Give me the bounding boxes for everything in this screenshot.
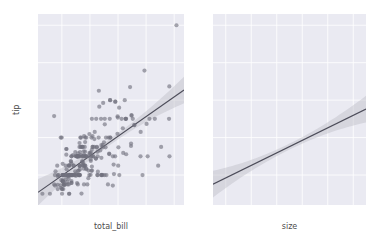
data-point xyxy=(59,135,63,139)
data-point xyxy=(83,145,87,149)
data-point xyxy=(77,173,81,177)
data-point xyxy=(53,169,57,173)
data-point xyxy=(113,100,117,104)
data-point xyxy=(81,154,85,158)
data-point xyxy=(97,105,101,109)
data-point xyxy=(93,130,97,134)
data-point xyxy=(99,117,103,121)
data-point xyxy=(106,182,110,186)
data-point xyxy=(78,150,82,154)
data-point xyxy=(156,164,160,168)
data-point xyxy=(129,114,133,118)
data-point xyxy=(96,170,100,174)
data-point xyxy=(77,141,81,145)
data-point xyxy=(104,173,108,177)
data-point xyxy=(60,187,64,191)
data-point xyxy=(83,140,87,144)
scatter-plot-size xyxy=(213,14,366,205)
data-point xyxy=(55,164,59,168)
data-point xyxy=(69,154,73,158)
data-point xyxy=(78,164,82,168)
data-point xyxy=(103,122,107,126)
data-point xyxy=(61,180,65,184)
data-point xyxy=(167,84,171,88)
data-point xyxy=(97,89,101,93)
x-axis-label-total-bill: total_bill xyxy=(38,222,184,231)
data-point xyxy=(84,166,88,170)
data-point xyxy=(87,132,91,136)
data-point xyxy=(138,154,142,158)
data-point xyxy=(83,150,87,154)
data-point xyxy=(67,164,71,168)
data-point xyxy=(153,117,157,121)
data-point xyxy=(40,192,44,196)
data-point xyxy=(108,117,112,121)
data-point xyxy=(167,117,171,121)
data-point xyxy=(89,135,93,139)
data-point xyxy=(90,168,94,172)
data-point xyxy=(103,117,107,121)
data-point xyxy=(99,156,103,160)
data-point xyxy=(102,140,106,144)
data-point xyxy=(64,147,68,151)
data-point xyxy=(80,159,84,163)
data-point xyxy=(61,173,65,177)
data-point xyxy=(94,156,98,160)
data-point xyxy=(115,132,119,136)
data-point xyxy=(82,182,86,186)
panel-size xyxy=(213,14,366,205)
data-point xyxy=(90,145,94,149)
scatter-plot-total-bill xyxy=(38,14,184,205)
data-point xyxy=(124,117,128,121)
data-point xyxy=(96,150,100,154)
data-point xyxy=(129,141,133,145)
data-point xyxy=(60,192,64,196)
data-point xyxy=(128,85,132,89)
data-point xyxy=(144,122,148,126)
data-point xyxy=(78,167,82,171)
data-point xyxy=(106,135,110,139)
data-point xyxy=(124,152,128,156)
data-point xyxy=(117,173,121,177)
data-point xyxy=(117,106,121,110)
data-point xyxy=(147,117,151,121)
data-point xyxy=(167,154,171,158)
data-point xyxy=(69,181,73,185)
data-point xyxy=(112,172,116,176)
figure-container: tip total_bill size xyxy=(0,0,376,248)
data-point xyxy=(84,135,88,139)
data-point xyxy=(89,157,93,161)
data-point xyxy=(65,167,69,171)
data-point xyxy=(116,164,120,168)
data-point xyxy=(87,173,91,177)
regression-line xyxy=(213,109,366,184)
data-point xyxy=(77,154,81,158)
data-point xyxy=(79,191,83,195)
data-point xyxy=(123,98,127,102)
data-point xyxy=(101,145,105,149)
data-point xyxy=(139,130,143,134)
panel-total-bill xyxy=(38,14,184,205)
y-axis-label: tip xyxy=(12,105,21,115)
data-point xyxy=(111,183,115,187)
data-point xyxy=(101,101,105,105)
data-point xyxy=(97,135,101,139)
data-point xyxy=(159,145,163,149)
data-point xyxy=(94,117,98,121)
data-point xyxy=(108,98,112,102)
data-point xyxy=(52,114,56,118)
data-point xyxy=(56,187,60,191)
data-point xyxy=(64,153,68,157)
data-point xyxy=(90,165,94,169)
data-point xyxy=(174,23,178,27)
data-point xyxy=(121,126,125,130)
data-point xyxy=(56,173,60,177)
data-point xyxy=(116,114,120,118)
data-point xyxy=(142,68,146,72)
data-point xyxy=(119,117,123,121)
data-point xyxy=(140,173,144,177)
data-point xyxy=(78,135,82,139)
data-point xyxy=(146,154,150,158)
data-point xyxy=(100,173,104,177)
data-point xyxy=(112,162,116,166)
